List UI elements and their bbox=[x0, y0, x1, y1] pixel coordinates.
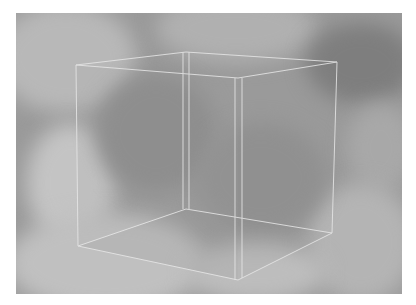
wireframe-cube bbox=[0, 0, 416, 305]
cube-edge bbox=[238, 62, 337, 78]
cube-edge bbox=[76, 52, 186, 65]
cube-edge bbox=[186, 52, 337, 62]
cube-edge bbox=[332, 62, 337, 233]
